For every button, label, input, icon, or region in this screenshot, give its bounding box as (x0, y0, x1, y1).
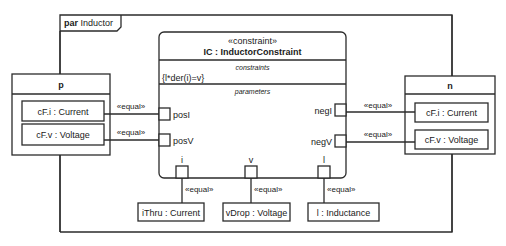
constraints-compartment-header: constraints (236, 64, 270, 71)
block-p-title: p (58, 80, 64, 90)
port-negI-label: negI (314, 106, 332, 116)
port-v[interactable] (245, 166, 257, 178)
constraint-stereotype: «constraint» (228, 36, 277, 46)
block-p[interactable]: p cF.i : Current cF.v : Voltage (12, 74, 110, 155)
value-vDrop-label: vDrop : Voltage (226, 208, 288, 218)
part-n-current-label: cF.i : Current (426, 108, 478, 118)
port-posV-label: posV (173, 136, 194, 146)
connector-label: «equal» (185, 185, 214, 194)
parameters-compartment-header: parameters (234, 88, 271, 96)
connector-label: «equal» (254, 185, 283, 194)
port-posV[interactable] (159, 134, 170, 146)
port-posI[interactable] (159, 108, 170, 120)
part-n-voltage-label: cF.v : Voltage (425, 135, 479, 145)
parametric-diagram: par Inductor p cF.i : Current cF.v : Vol… (0, 0, 506, 246)
port-negV[interactable] (335, 135, 346, 147)
port-posI-label: posI (173, 110, 190, 120)
block-n-title: n (447, 81, 453, 91)
part-p-current-label: cF.i : Current (37, 107, 89, 117)
connector-label: «equal» (117, 128, 146, 137)
port-v-label: v (249, 155, 254, 165)
part-p-voltage-label: cF.v : Voltage (36, 130, 90, 140)
port-i-label: i (181, 155, 183, 165)
connector-label: «equal» (364, 101, 393, 110)
port-l-label: l (323, 155, 325, 165)
port-l[interactable] (318, 166, 330, 178)
port-i[interactable] (176, 166, 188, 178)
connector-label: «equal» (117, 102, 146, 111)
port-negV-label: negV (311, 137, 332, 147)
block-n[interactable]: n cF.i : Current cF.v : Voltage (405, 76, 495, 154)
constraint-title: IC : InductorConstraint (204, 47, 302, 57)
connector-label: «equal» (364, 130, 393, 139)
value-iThru-label: iThru : Current (142, 208, 201, 218)
constraint-expression: {l*der(i)=v} (162, 73, 204, 83)
port-negI[interactable] (335, 104, 346, 116)
connector-label: «equal» (327, 185, 356, 194)
frame-label: par Inductor (64, 18, 113, 28)
value-inductance-label: l : Inductance (317, 208, 371, 218)
